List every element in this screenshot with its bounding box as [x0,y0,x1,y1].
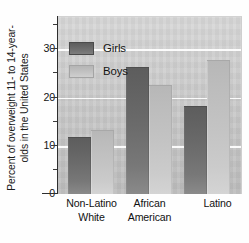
plot-area: Girls Boys [58,16,242,194]
bar-girls-african-american [126,67,149,194]
bar-boys-african-american [149,85,172,194]
bar-boys-latino [207,60,230,194]
x-label-african-american: African American [112,197,187,224]
x-label-latino-line-1: Latino [180,197,249,211]
legend-label-boys: Boys [103,66,128,77]
x-label-african-american-line-2: American [112,211,187,225]
y-axis-title-line-1: Percent of overweight 11- to 14-year- [5,25,18,191]
y-axis-tick-labels: 0 10 20 30 [33,0,55,215]
legend-item-boys: Boys [69,63,128,79]
bar-girls-non-latino-white [68,137,91,194]
bar-chart-figure: Percent of overweight 11- to 14-year- ol… [0,0,249,243]
legend-swatch-boys [69,65,94,78]
x-axis-category-labels: Non-Latino White African American Latino [58,197,241,239]
y-axis-title: Percent of overweight 11- to 14-year- ol… [0,0,36,215]
y-axis-title-line-2: olds in the United States [18,25,31,191]
legend-item-girls: Girls [69,40,128,56]
bar-girls-latino [184,106,207,194]
legend-swatch-girls [69,42,94,55]
legend: Girls Boys [69,40,128,86]
x-label-latino: Latino [180,197,249,211]
legend-label-girls: Girls [103,43,126,54]
x-label-african-american-line-1: African [112,197,187,211]
bar-boys-non-latino-white [91,130,114,194]
